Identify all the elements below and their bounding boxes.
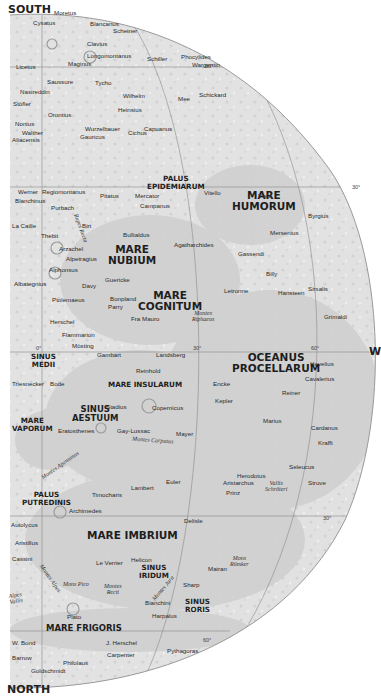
crater-label: Arzachel [59, 246, 83, 252]
crater-label: Tycho [95, 80, 112, 86]
crater-label: Carpenter [107, 652, 135, 658]
crater-label: Hansteen [278, 290, 305, 296]
crater-label: Alphonsus [49, 267, 78, 273]
crater-label: W. Bond [12, 640, 35, 646]
crater-label: Kepler [215, 398, 233, 404]
mare-insularum-label: MARE INSULARUM [108, 381, 182, 389]
crater-label: Copernicus [152, 405, 183, 411]
sinus-iridum-label: SINUSIRIDUM [139, 564, 169, 579]
crater-label: Seleucus [289, 464, 314, 470]
mons-pico-label: Mons Pico [63, 581, 89, 587]
crater-label: Aristarchus [223, 480, 254, 486]
crater-label: Stadius [106, 404, 127, 410]
crater-label: Campanus [140, 203, 170, 209]
crater-label: Triesnecker [12, 381, 44, 387]
crater-label: Krafft [318, 440, 333, 446]
mare-nubium-label: MARENUBIUM [108, 244, 156, 266]
crater-label: Schiller [147, 56, 167, 62]
crater-label: Timocharis [92, 492, 122, 498]
crater-label: Orontius [48, 112, 71, 118]
crater-label: Eratosthenes [58, 428, 94, 434]
crater-label: Bullialdus [123, 232, 149, 238]
grid-label-lat-30s: 30° [352, 184, 360, 190]
crater-label: Fra Mauro [131, 316, 160, 322]
crater-label: Archimedes [69, 508, 102, 514]
alpes-vallis-label: AlpesVallis [8, 591, 23, 606]
crater-label: Cardanus [311, 425, 338, 431]
crater-label: Clavius [87, 41, 107, 47]
crater-label: Werner [18, 189, 38, 195]
direction-north: NORTH [7, 683, 50, 696]
crater-label: Agatharchides [174, 242, 214, 248]
crater-label: Euler [166, 479, 180, 485]
crater-label: Blanchinus [15, 198, 45, 204]
grid-label-lat-60n: 60° [203, 637, 211, 643]
crater-label: Grimaldi [324, 314, 347, 320]
crater-label: Struve [308, 480, 326, 486]
oceanus-procellarum-label: OCEANUSPROCELLARUM [232, 352, 320, 374]
crater-label: Alpetragius [66, 256, 97, 262]
crater-label: Le Verrier [96, 560, 123, 566]
crater-label: Reiner [282, 390, 300, 396]
crater-label: Gay-Lussac [117, 428, 150, 434]
mare-cognitum-label: MARECOGNITUM [138, 290, 202, 312]
crater-label: Nonius [15, 121, 34, 127]
grid-label-lon-30: 30° [193, 345, 201, 351]
crater-label: Pythagoras [167, 648, 198, 654]
crater-label: Prinz [226, 490, 240, 496]
crater-label: Harpalus [152, 613, 177, 619]
crater-label: Philolaus [63, 660, 88, 666]
sinus-roris-label: SINUSRORIS [185, 598, 210, 613]
crater-label: Hevelius [310, 361, 334, 367]
crater-label: Gauricus [80, 134, 105, 140]
crater-label: Mairan [208, 566, 227, 572]
crater-label: Wilhelm [123, 93, 145, 99]
crater-label: Cysatus [33, 20, 55, 26]
crater-label: Sirsalis [308, 286, 328, 292]
crater-label: Guericke [105, 277, 130, 283]
crater-label: Delisle [184, 518, 203, 524]
montes-riphaeus-label: MontesRiphaeus [192, 310, 214, 323]
crater-label: Aristillus [15, 540, 38, 546]
crater-label: Nasireddin [20, 89, 50, 95]
crater-label: Birt [82, 223, 91, 229]
crater-label: Lambert [131, 485, 154, 491]
crater-label: Schickard [199, 92, 226, 98]
crater-label: Landsberg [156, 352, 185, 358]
crater-label: Pitatus [100, 193, 119, 199]
crater-label: Bode [50, 381, 64, 387]
palus-epidemiarum-label: PALUSEPIDEMIARUM [147, 175, 205, 190]
crater-label: Moretus [54, 10, 76, 16]
direction-west: W [369, 345, 381, 358]
grid-label-lon-60: 60° [311, 345, 319, 351]
crater-label: Mercator [135, 193, 159, 199]
grid-label-lon-0: 0° [36, 345, 41, 351]
crater-label: Ptolemaeus [52, 297, 85, 303]
crater-label: Encke [213, 381, 230, 387]
crater-label: Capuanus [144, 126, 172, 132]
mons-romker-label: MonsRümker [230, 555, 249, 568]
palus-putredinis-label: PALUSPUTREDINIS [22, 491, 71, 506]
crater-label: Wurzelbauer [85, 126, 120, 132]
crater-label: Cichus [128, 130, 147, 136]
crater-label: Saussure [47, 79, 73, 85]
crater-label: La Caille [12, 223, 36, 229]
mare-frigoris-label: MARE FRIGORIS [46, 624, 122, 633]
crater-label: Scheiner [113, 28, 137, 34]
crater-label: Billy [266, 271, 277, 277]
crater-label: Reinhold [136, 368, 160, 374]
crater-label: Wargentin [192, 62, 220, 68]
crater-label: Helicon [131, 557, 152, 563]
crater-label: Herschel [50, 319, 74, 325]
crater-label: Parry [108, 304, 123, 310]
crater-label: J. Herschel [106, 640, 137, 646]
montes-recti-label: MontesRecti [104, 583, 122, 596]
crater-label: Albategnius [14, 281, 46, 287]
crater-label: Mee [178, 96, 190, 102]
vallis-schroteri-label: VallisSchröteri [265, 480, 287, 493]
crater-label: Sharp [183, 582, 200, 588]
grid-label-lat-30n: 30° [323, 515, 331, 521]
crater-label: Stöfler [13, 101, 31, 107]
crater-label: Plato [67, 614, 81, 620]
crater-label: Barrow [12, 655, 32, 661]
